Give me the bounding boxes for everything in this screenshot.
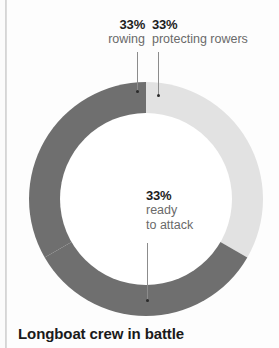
callout-protecting-rowers-label: protecting rowers <box>152 32 248 47</box>
callout-rowing-percent: 33% <box>91 17 145 32</box>
callout-ready-to-attack-label-line2: to attack <box>146 218 193 233</box>
leader-line-protecting-rowers <box>158 52 159 96</box>
callout-ready-to-attack-label-line1: ready <box>146 203 193 218</box>
leader-line-rowing <box>137 52 138 92</box>
leader-dot-rowing <box>136 90 139 93</box>
donut-chart-page: 33% rowing 33% protecting rowers 33% rea… <box>0 0 279 348</box>
leader-line-ready-to-attack <box>147 243 148 301</box>
callout-ready-to-attack-percent: 33% <box>146 188 193 203</box>
page-edge-line <box>5 0 7 348</box>
callout-ready-to-attack: 33% ready to attack <box>146 188 193 233</box>
callout-rowing: 33% rowing <box>91 17 145 47</box>
chart-title: Longboat crew in battle <box>18 325 184 342</box>
leader-dot-protecting-rowers <box>157 94 160 97</box>
callout-protecting-rowers: 33% protecting rowers <box>152 17 248 47</box>
callout-protecting-rowers-percent: 33% <box>152 17 248 32</box>
callout-rowing-label: rowing <box>91 32 145 47</box>
leader-dot-ready-to-attack <box>146 299 149 302</box>
